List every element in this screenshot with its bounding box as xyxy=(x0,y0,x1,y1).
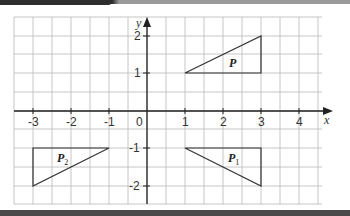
x-axis-label: x xyxy=(323,113,330,127)
triangle-p1-label: P1 xyxy=(228,151,239,167)
x-tick-label: 2 xyxy=(220,115,227,129)
y-tick-label: 1 xyxy=(134,66,141,80)
x-tick-labels: -3 -2 -1 0 1 2 3 4 xyxy=(28,115,303,129)
x-tick-label: 4 xyxy=(296,115,303,129)
y-tick-label: -2 xyxy=(129,179,140,193)
triangle-p-label: P xyxy=(229,56,237,70)
x-tick-label: -2 xyxy=(66,115,77,129)
x-tick-label: 3 xyxy=(258,115,265,129)
y-axis-label: y xyxy=(135,16,142,30)
origin-label: 0 xyxy=(136,115,143,129)
triangle-p2-label: P2 xyxy=(57,151,68,167)
y-axis: y xyxy=(135,16,151,204)
x-tick-label: -3 xyxy=(28,115,39,129)
y-axis-arrow-icon xyxy=(143,17,151,27)
y-tick-label: -1 xyxy=(129,141,140,155)
x-tick-label: 1 xyxy=(182,115,189,129)
coordinate-grid: x y -3 -2 -1 0 1 2 3 4 2 1 -1 -2 P P1 P2 xyxy=(0,0,350,216)
y-tick-label: 2 xyxy=(134,29,141,43)
x-axis: x xyxy=(14,107,333,127)
bottom-border-bar xyxy=(0,210,350,216)
x-tick-label: -1 xyxy=(104,115,115,129)
